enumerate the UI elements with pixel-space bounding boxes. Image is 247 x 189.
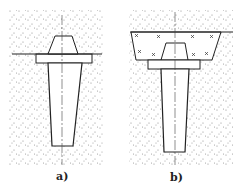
footing-plate — [36, 54, 92, 63]
footing-plate — [148, 60, 200, 69]
panel-label-a: a) — [56, 170, 68, 183]
column-cap — [161, 43, 188, 60]
panel-b: b) — [129, 10, 233, 184]
panel-a: a) — [9, 10, 103, 183]
panel-label-b: b) — [170, 171, 183, 184]
diagram: a) b) — [0, 0, 247, 189]
